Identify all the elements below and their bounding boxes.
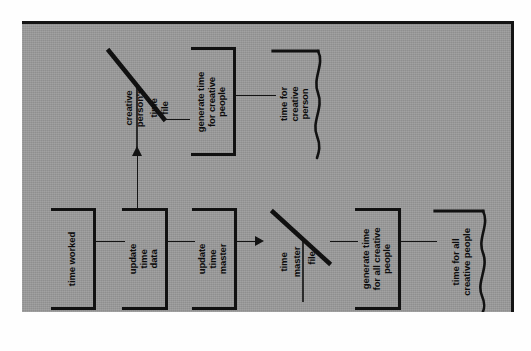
document-time-for-all-creative-people[interactable]: time for all creative people <box>431 208 501 312</box>
data-store-time-master-file[interactable]: time master file <box>267 206 345 310</box>
process-label: generate time for all creative people <box>361 228 393 291</box>
process-generate-time-for-all-creative-people[interactable]: generate time for all creative people <box>355 208 401 310</box>
flow-store-to-generate-creative <box>164 119 190 120</box>
document-label: time for all creative people <box>451 228 472 296</box>
flow-store-to-generate-all <box>330 241 358 242</box>
data-flow-diagram: creative person's time file generate tim… <box>22 24 511 312</box>
process-update-time-master[interactable]: update time master <box>192 208 237 310</box>
process-generate-time-for-creative-people[interactable]: generate time for creative people <box>191 47 236 156</box>
flow-update-data-to-update-master <box>168 241 195 242</box>
data-store-label-tertiary: file <box>307 251 318 264</box>
diagram-page-panel: creative person's time file generate tim… <box>22 21 514 312</box>
process-update-time-data[interactable]: update time data <box>122 208 168 310</box>
document-time-for-creative-person[interactable]: time for creative person <box>269 48 339 160</box>
process-time-worked[interactable]: time worked <box>51 208 96 310</box>
process-label: generate time for creative people <box>196 71 228 131</box>
flow-time-worked-to-update-data <box>96 241 125 242</box>
data-store-creative-persons-time-file[interactable]: creative person's time file <box>104 46 176 154</box>
data-store-label-secondary: time file <box>149 98 170 117</box>
document-label: time for creative person <box>279 86 311 121</box>
arrow-right-icon <box>255 236 264 246</box>
flow-update-master-to-store-line <box>237 241 257 242</box>
process-label: time worked <box>67 232 78 286</box>
process-label: update time data <box>128 244 160 275</box>
arrow-up-icon <box>132 146 142 156</box>
data-store-label: time <box>279 252 290 271</box>
data-store-label: creative person's <box>124 89 145 127</box>
process-label: update time master <box>197 244 229 275</box>
flow-update-data-to-store-line <box>137 154 138 209</box>
screenshot-canvas: creative person's time file generate tim… <box>0 0 531 351</box>
data-store-label-secondary: master <box>292 247 303 278</box>
